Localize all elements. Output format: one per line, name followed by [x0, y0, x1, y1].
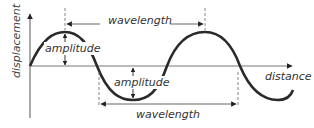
amplitude-trough-label: amplitude	[114, 76, 170, 89]
wavelength-bottom-label: wavelength	[136, 108, 200, 121]
wavelength-top-label: wavelength	[108, 14, 172, 27]
amplitude-crest-label: amplitude	[45, 42, 101, 55]
y-axis-label: displacement	[10, 3, 23, 78]
wave-diagram: amplitude amplitude wavelength wavelengt…	[0, 0, 314, 128]
x-axis-label: distance	[265, 70, 312, 83]
